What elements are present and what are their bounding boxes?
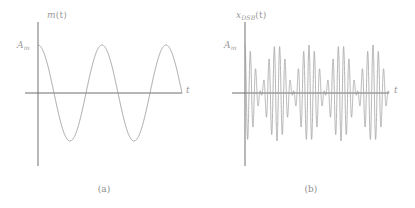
x-axis-label: t <box>394 86 398 95</box>
x-axis-label: t <box>186 86 190 95</box>
panel-b: xDSB(t) Am t (b) <box>207 0 415 208</box>
y-axis-label-symbol: m <box>47 10 56 20</box>
y-axis-tick-symbol: A <box>224 40 231 50</box>
two-panel-figure: m(t) Am t (a) xDSB(t) Am t (b) <box>0 0 415 208</box>
y-axis-tick-label: Am <box>224 41 237 50</box>
y-axis-label-argument: (t) <box>56 10 67 20</box>
panel-a: m(t) Am t (a) <box>0 0 208 208</box>
y-axis-tick-subscript: m <box>231 44 237 51</box>
y-axis-label-argument: (t) <box>255 10 266 20</box>
y-axis-tick-symbol: A <box>17 40 24 50</box>
y-axis-label-subscript: DSB <box>241 14 255 21</box>
y-axis-tick-label: Am <box>17 41 30 50</box>
message-signal-plot <box>0 0 208 180</box>
y-axis-label: m(t) <box>47 11 67 20</box>
y-axis-tick-subscript: m <box>24 44 30 51</box>
dsb-signal-plot <box>207 0 415 180</box>
panel-caption-b: (b) <box>207 184 415 194</box>
panel-caption-a: (a) <box>0 184 208 194</box>
y-axis-label: xDSB(t) <box>236 11 267 20</box>
